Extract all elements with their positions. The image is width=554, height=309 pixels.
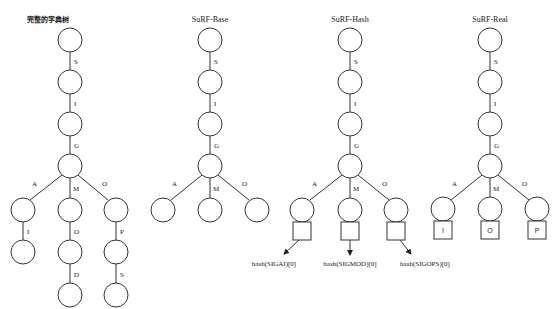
- real-suffix-label: I: [442, 227, 444, 234]
- real-suffix-label: O: [487, 227, 493, 234]
- edge-label: I: [74, 100, 77, 108]
- trie-node: [338, 112, 362, 136]
- arrow-icon: [284, 240, 299, 254]
- hash-label: hash(SIGAI)[0]: [252, 260, 296, 268]
- edge-label: D: [74, 271, 79, 279]
- edge-label: M: [493, 185, 500, 193]
- edge-label: O: [74, 228, 79, 236]
- trie-node: [58, 70, 82, 94]
- edge-label: S: [74, 58, 78, 66]
- tree-title: 完整的字典树: [27, 15, 69, 24]
- edge-label: I: [214, 100, 217, 108]
- edge-label: I: [27, 228, 30, 236]
- edge-label: P: [120, 228, 124, 236]
- edge-label: O: [382, 180, 387, 188]
- edge-label: M: [353, 185, 360, 193]
- tree-title: SuRF-Base: [192, 15, 229, 24]
- trie-node: [198, 70, 222, 94]
- tree-surf-real: SuRF-Real S I G A M O I O P: [431, 15, 549, 239]
- trie-node: [245, 198, 269, 222]
- arrow-icon: [400, 240, 411, 254]
- edge-label: I: [494, 100, 497, 108]
- tree-title: SuRF-Hash: [331, 15, 368, 24]
- tree-full-trie: 完整的字典树 S I G A M O I O P D S: [11, 15, 128, 307]
- tree-surf-hash: SuRF-Hash S I G A M O hash(SIGAI)[0] has…: [252, 15, 450, 268]
- trie-node: [290, 198, 314, 222]
- edge-label: M: [73, 185, 80, 193]
- trie-node-root: [58, 28, 82, 52]
- edge-label: O: [242, 180, 247, 188]
- trie-node: [338, 198, 362, 222]
- trie-node: [11, 198, 35, 222]
- edge-label: G: [354, 142, 359, 150]
- trie-node: [11, 240, 35, 264]
- edge-label: A: [452, 180, 457, 188]
- edge-label: O: [522, 180, 527, 188]
- trie-node: [198, 198, 222, 222]
- edge-label: S: [494, 58, 498, 66]
- hash-box: [387, 222, 405, 240]
- hash-label: hash(SIGOPS)[0]: [400, 260, 450, 268]
- trie-node: [151, 198, 175, 222]
- trie-node: [431, 197, 455, 221]
- edge-label: M: [213, 185, 220, 193]
- trie-node: [478, 112, 502, 136]
- trie-node: [338, 70, 362, 94]
- real-suffix-label: P: [535, 227, 540, 234]
- tree-title: SuRF-Real: [472, 15, 508, 24]
- edge-label: O: [102, 180, 107, 188]
- trie-node: [104, 240, 128, 264]
- hash-box: [341, 222, 359, 240]
- trie-node: [525, 197, 549, 221]
- trie-node-root: [338, 28, 362, 52]
- edge-label: S: [354, 58, 358, 66]
- trie-node: [384, 198, 408, 222]
- edge-label: G: [214, 142, 219, 150]
- trie-node-root: [198, 28, 222, 52]
- edge-label: A: [32, 180, 37, 188]
- tree-surf-base: SuRF-Base S I G A M O: [151, 15, 269, 222]
- trie-diagrams: 完整的字典树 S I G A M O I O P D S: [0, 0, 554, 309]
- trie-node: [58, 240, 82, 264]
- trie-node: [104, 198, 128, 222]
- hash-label: hash(SIGMOD)[0]: [323, 260, 376, 268]
- edge-label: G: [74, 142, 79, 150]
- edge-label: I: [354, 100, 357, 108]
- hash-box: [293, 222, 311, 240]
- trie-node: [478, 70, 502, 94]
- trie-node: [58, 154, 82, 178]
- trie-node: [478, 154, 502, 178]
- trie-node: [198, 112, 222, 136]
- trie-node: [338, 154, 362, 178]
- edge-label: G: [494, 142, 499, 150]
- trie-node: [58, 198, 82, 222]
- edge-label: S: [214, 58, 218, 66]
- edge-label: A: [312, 180, 317, 188]
- trie-node: [198, 154, 222, 178]
- trie-node: [58, 283, 82, 307]
- edge-label: S: [120, 271, 124, 279]
- trie-node: [58, 112, 82, 136]
- trie-node: [104, 283, 128, 307]
- trie-node: [478, 197, 502, 221]
- trie-node-root: [478, 28, 502, 52]
- edge-label: A: [172, 180, 177, 188]
